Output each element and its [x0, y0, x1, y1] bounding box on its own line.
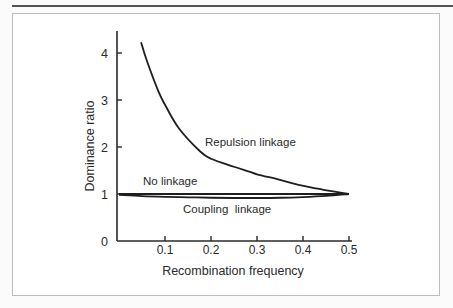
- label-no-linkage: No linkage: [143, 175, 197, 187]
- label-coupling-linkage: Coupling linkage: [183, 203, 271, 215]
- curve-labels: Repulsion linkage No linkage Coupling li…: [143, 136, 296, 215]
- x-tick-label: 0.5: [341, 243, 358, 257]
- y-tick-label: 1: [101, 188, 108, 202]
- x-tick-label: 0.4: [295, 243, 312, 257]
- x-tick-label: 0.2: [203, 243, 220, 257]
- x-ticks: 0.10.20.30.40.5: [157, 236, 358, 257]
- y-axis-label: Dominance ratio: [83, 100, 97, 191]
- curve-repulsion-linkage: [141, 42, 349, 194]
- x-tick-label: 0.3: [249, 243, 266, 257]
- y-tick-label: 0: [101, 235, 108, 249]
- chart: 01234 0.10.20.30.40.5 Repulsion linkage …: [0, 0, 453, 308]
- y-tick-label: 3: [101, 94, 108, 108]
- y-tick-label: 2: [101, 141, 108, 155]
- x-axis-label: Recombination frequency: [162, 264, 304, 278]
- x-tick-label: 0.1: [157, 243, 174, 257]
- y-tick-label: 4: [101, 47, 108, 61]
- y-ticks: 01234: [101, 47, 122, 249]
- label-repulsion-linkage: Repulsion linkage: [205, 136, 296, 148]
